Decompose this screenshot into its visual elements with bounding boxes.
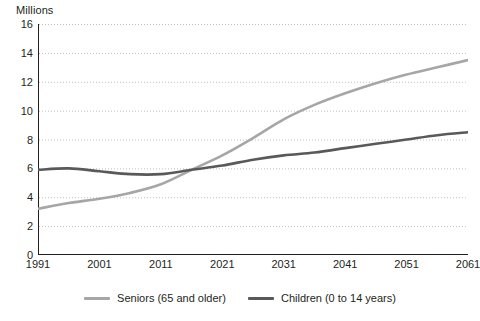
legend-item[interactable]: Children (0 to 14 years) [248, 292, 396, 304]
y-tick-label: 4 [3, 191, 33, 203]
x-axis-tick-labels: 19912001201120212031204120512061 [38, 258, 468, 274]
legend-label: Seniors (65 and older) [117, 292, 226, 304]
y-tick-label: 14 [3, 47, 33, 59]
y-axis-title: Millions [16, 4, 53, 16]
x-tick-label: 2001 [87, 258, 111, 270]
x-tick-label: 2051 [394, 258, 418, 270]
x-tick-label: 2011 [149, 258, 173, 270]
x-tick-label: 2021 [210, 258, 234, 270]
y-tick-label: 8 [3, 134, 33, 146]
legend-label: Children (0 to 14 years) [281, 292, 396, 304]
x-tick-label: 2031 [271, 258, 295, 270]
y-axis-tick-labels: 1614121086420 [0, 24, 33, 255]
legend-swatch [84, 297, 110, 300]
y-tick-label: 16 [3, 18, 33, 30]
x-tick-label: 2061 [456, 258, 480, 270]
chart-legend: Seniors (65 and older)Children (0 to 14 … [0, 292, 480, 304]
x-tick-label: 1991 [26, 258, 50, 270]
y-tick-label: 12 [3, 76, 33, 88]
legend-item[interactable]: Seniors (65 and older) [84, 292, 226, 304]
plot-area [38, 24, 468, 255]
y-tick-label: 10 [3, 105, 33, 117]
y-tick-label: 2 [3, 220, 33, 232]
gridlines [39, 25, 468, 227]
x-tick-label: 2041 [333, 258, 357, 270]
y-tick-label: 6 [3, 162, 33, 174]
legend-swatch [248, 297, 274, 300]
plot-svg [38, 24, 468, 255]
chart-container: Millions 1614121086420 19912001201120212… [0, 0, 480, 321]
